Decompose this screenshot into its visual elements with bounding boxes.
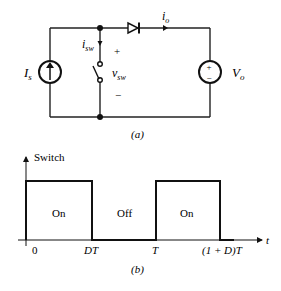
output-current-label: io [162,9,169,25]
voltage-source-minus: − [207,73,212,83]
current-source-label: Is [23,65,32,82]
switch-icon [93,62,102,83]
tick-t: T [152,244,159,256]
y-axis-label: Switch [34,151,65,163]
switch-voltage-label: vsw [112,66,126,82]
caption-b: (b) [131,263,144,276]
switch-voltage-plus: + [114,45,120,57]
region-label-on-2: On [180,207,194,219]
tick-dt: DT [83,244,99,256]
tick-1-plus-d-t: (1 + D)T [202,244,243,257]
diode-icon [128,23,139,34]
node-bottom [97,114,103,120]
circuit-diagram [50,28,210,117]
tick-0: 0 [32,244,38,256]
voltage-source-plus: + [207,62,212,72]
diagram-canvas: Is isw + vsw − io + − Vo (a) Switch t On… [0,0,281,291]
voltage-source-label: Vo [232,65,245,82]
switch-current-label: isw [82,37,94,53]
node-top [97,25,103,31]
caption-a: (a) [131,128,144,141]
region-label-on-1: On [52,207,66,219]
output-current-arrow-icon [163,25,168,31]
switch-voltage-minus: − [115,89,121,101]
switch-current-arrow-icon [98,41,103,46]
x-axis-label: t [266,234,270,246]
current-source-icon [39,61,61,83]
region-label-off: Off [117,207,132,219]
